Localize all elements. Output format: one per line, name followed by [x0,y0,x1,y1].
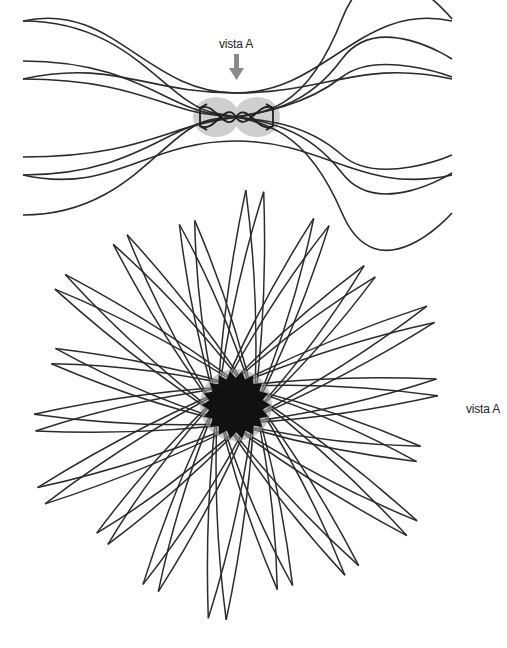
top-view-label: vista A [219,37,253,51]
radial-view [34,190,438,620]
side-view-label: vista A [466,402,500,416]
braid-diagram [0,0,507,648]
view-arrow-icon [229,54,244,80]
